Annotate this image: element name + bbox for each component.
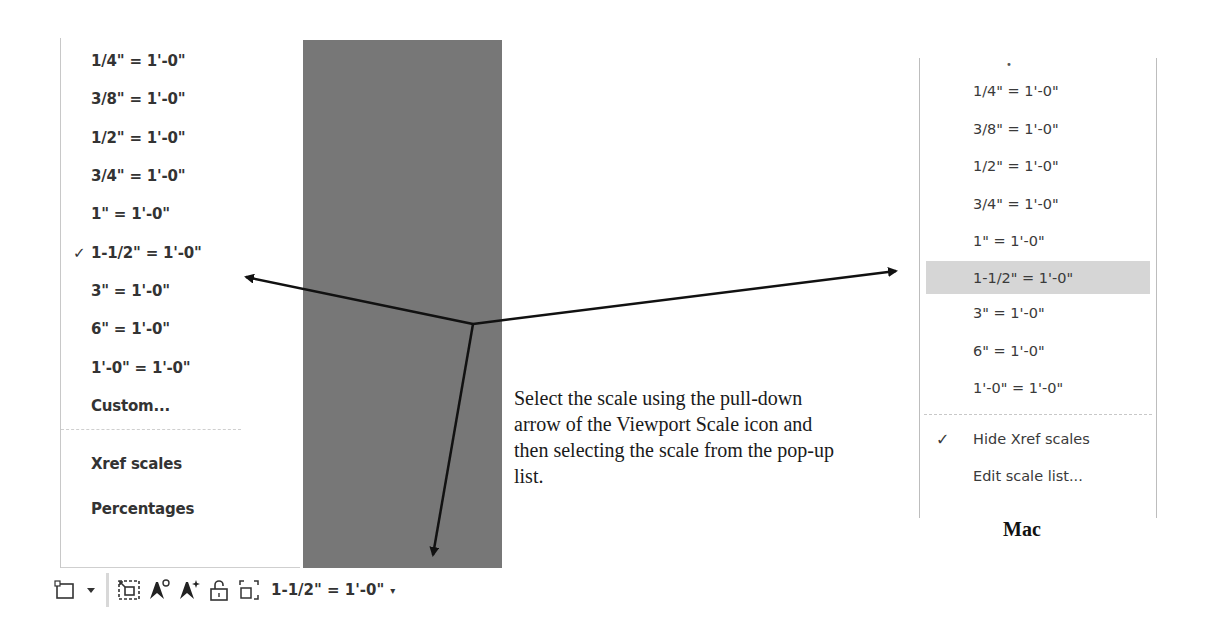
item-label: 1/2" = 1'-0" [973,158,1059,174]
item-label: 3/8" = 1'-0" [91,90,185,108]
menu-overflow-dot: • [1006,59,1012,70]
windows-scale-menu: 1/4" = 1'-0" 3/8" = 1'-0" 1/2" = 1'-0" 3… [60,38,300,568]
viewport-scale-icon[interactable] [237,578,261,602]
scale-item-6[interactable]: 6" = 1'-0" [61,312,291,346]
hide-xref-scales-item[interactable]: ✓ Hide Xref scales [926,424,1150,454]
mac-scale-item-1-4[interactable]: 1/4" = 1'-0" [926,76,1150,106]
percentages-item[interactable]: Percentages [61,492,291,526]
annotation-visibility-icon[interactable] [147,578,171,602]
menu-separator [61,429,241,430]
mac-scale-item-1-0[interactable]: 1'-0" = 1'-0" [926,373,1150,403]
item-label: 6" = 1'-0" [973,343,1045,359]
scale-item-1-1-2[interactable]: ✓ 1-1/2" = 1'-0" [61,236,291,270]
custom-item[interactable]: Custom... [61,389,291,423]
maximize-viewport-icon[interactable] [117,578,141,602]
mac-scale-item-6[interactable]: 6" = 1'-0" [926,336,1150,366]
item-label: Xref scales [91,455,182,473]
viewport-scale-dropdown[interactable]: 1-1/2" = 1'-0" ▾ [271,581,395,599]
item-label: 1'-0" = 1'-0" [973,380,1063,396]
scale-item-3[interactable]: 3" = 1'-0" [61,274,291,308]
item-label: 3/4" = 1'-0" [91,167,185,185]
viewport-toolbar: 1-1/2" = 1'-0" ▾ [54,572,514,608]
drawing-area-panel [303,40,502,568]
chevron-down-icon[interactable]: ▾ [390,585,395,596]
mac-scale-item-3-4[interactable]: 3/4" = 1'-0" [926,189,1150,219]
mac-platform-label: Mac [1003,518,1041,541]
scale-item-1[interactable]: 1" = 1'-0" [61,197,291,231]
item-label: Hide Xref scales [973,431,1090,447]
menu-separator [924,414,1152,415]
auto-scale-icon[interactable] [177,578,201,602]
mac-scale-item-1-1-2-selected[interactable]: 1-1/2" = 1'-0" [926,261,1150,294]
instruction-caption: Select the scale using the pull-down arr… [514,385,834,489]
item-label: 1-1/2" = 1'-0" [973,270,1073,286]
scale-item-1-0[interactable]: 1'-0" = 1'-0" [61,351,291,385]
item-label: 1" = 1'-0" [973,233,1045,249]
item-label: 1/4" = 1'-0" [91,52,185,70]
item-label: Edit scale list... [973,468,1083,484]
item-label: Percentages [91,500,194,518]
item-label: 1-1/2" = 1'-0" [91,244,202,262]
xref-scales-item[interactable]: Xref scales [61,447,291,481]
item-label: 3/4" = 1'-0" [973,196,1059,212]
checkmark-icon: ✓ [936,430,949,449]
scale-item-3-4[interactable]: 3/4" = 1'-0" [61,159,291,193]
dropdown-caret-icon[interactable] [84,578,98,602]
menu-bottom-border [61,567,300,568]
current-scale-value: 1-1/2" = 1'-0" [271,581,384,599]
item-label: 3" = 1'-0" [973,305,1045,321]
item-label: 1/2" = 1'-0" [91,129,185,147]
toolbar-divider [106,573,109,607]
scale-item-1-4[interactable]: 1/4" = 1'-0" [61,44,291,78]
item-label: 3/8" = 1'-0" [973,121,1059,137]
mac-scale-item-1-2[interactable]: 1/2" = 1'-0" [926,151,1150,181]
scale-item-3-8[interactable]: 3/8" = 1'-0" [61,82,291,116]
mac-scale-item-3[interactable]: 3" = 1'-0" [926,298,1150,328]
mac-scale-menu: • 1/4" = 1'-0" 3/8" = 1'-0" 1/2" = 1'-0"… [919,58,1157,518]
item-label: 1" = 1'-0" [91,205,170,223]
mac-scale-item-1[interactable]: 1" = 1'-0" [926,226,1150,256]
viewport-rectangle-icon[interactable] [54,578,78,602]
item-label: 1'-0" = 1'-0" [91,359,190,377]
scale-item-1-2[interactable]: 1/2" = 1'-0" [61,121,291,155]
mac-scale-item-3-8[interactable]: 3/8" = 1'-0" [926,114,1150,144]
item-label: 1/4" = 1'-0" [973,83,1059,99]
item-label: Custom... [91,397,170,415]
lock-viewport-icon[interactable] [207,578,231,602]
edit-scale-list-item[interactable]: Edit scale list... [926,461,1150,491]
checkmark-icon: ✓ [73,244,85,262]
item-label: 3" = 1'-0" [91,282,170,300]
item-label: 6" = 1'-0" [91,320,170,338]
